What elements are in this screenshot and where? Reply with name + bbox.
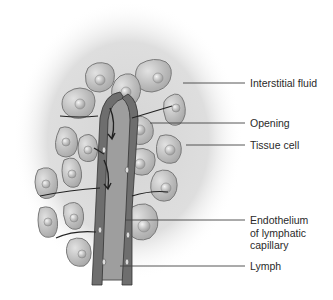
label-opening: Opening — [250, 117, 290, 130]
label-endothelium-line3: capillary — [250, 239, 308, 252]
label-endothelium-line2: of lymphatic — [250, 227, 308, 240]
label-tissue-cell: Tissue cell — [250, 139, 299, 152]
label-endothelium: Endothelium of lymphatic capillary — [250, 214, 308, 252]
label-endothelium-line1: Endothelium — [250, 214, 308, 227]
label-interstitial-fluid: Interstitial fluid — [250, 77, 317, 90]
label-lymph: Lymph — [250, 260, 281, 273]
